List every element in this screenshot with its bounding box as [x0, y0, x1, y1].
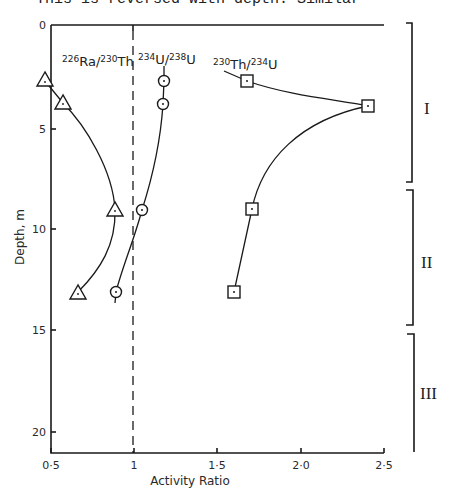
series-ra-th — [37, 72, 123, 299]
series-th230-u234-curve — [224, 71, 368, 292]
zone-bracket-i — [406, 23, 412, 182]
plot-frame-axes — [51, 25, 384, 453]
x-tick-label: 0·5 — [42, 459, 60, 472]
zone-label-ii: II — [421, 253, 433, 272]
y-tick-label: 20 — [32, 426, 46, 439]
x-tick-label: 1·5 — [208, 459, 226, 472]
depth-profile-chart: 0·5 1 1·5 2·0 2·5 Activity Ratio 0 5 10 … — [0, 0, 457, 494]
series-u234-u238-curve — [115, 66, 164, 303]
series-th230-u234 — [224, 71, 374, 298]
series-ra-th-curve — [45, 81, 115, 292]
y-axis-title: Depth, m — [13, 209, 27, 265]
y-tick-label: 0 — [39, 19, 46, 32]
series-label-ra-th: 226Ra/230Th — [62, 54, 134, 69]
x-tick-label: 2·0 — [292, 459, 310, 472]
y-tick-label: 15 — [32, 324, 46, 337]
triangle-marker — [107, 202, 123, 216]
x-axis-title: Activity Ratio — [150, 474, 230, 488]
series-label-th230-u234: 230Th/234U — [213, 57, 277, 72]
x-axis-tick-labels: 0·5 1 1·5 2·0 2·5 — [42, 459, 393, 472]
x-tick-label: 2·5 — [375, 459, 393, 472]
series-u234-u238 — [111, 66, 170, 303]
zone-brackets: I II III — [406, 23, 437, 452]
zone-label-iii: III — [420, 384, 437, 403]
y-tick-label: 10 — [32, 223, 46, 236]
series-label-u234-u238: 234U/238U — [138, 52, 196, 67]
zone-bracket-iii — [407, 334, 414, 452]
zone-bracket-ii — [406, 190, 413, 325]
zone-label-i: I — [424, 99, 430, 118]
x-tick-label: 1 — [131, 459, 138, 472]
y-tick-label: 5 — [39, 123, 46, 136]
